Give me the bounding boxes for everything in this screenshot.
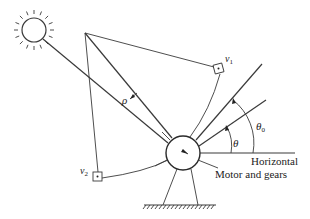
- solar-tracker-diagram: ρ v1 v2 θ θ0 Horizontal Motor and gears: [0, 0, 310, 219]
- theta0-arrowhead: [232, 98, 236, 104]
- motor-label: Motor and gears: [215, 168, 287, 180]
- stand-leg-right: [191, 169, 198, 205]
- ground-hatch: [143, 205, 216, 209]
- sun-ray-line: [43, 39, 168, 143]
- arc-v2: [102, 160, 168, 178]
- apex-to-v1-line: [85, 33, 214, 67]
- sensor-v2: [93, 172, 102, 181]
- v1-label: v1: [225, 53, 233, 66]
- v2-label: v2: [80, 165, 88, 178]
- horizontal-label: Horizontal: [251, 155, 298, 167]
- pivot-motor-circle: [166, 136, 200, 170]
- motor-leader-line: [198, 160, 218, 168]
- theta-label: θ: [233, 137, 239, 149]
- stand-leg-left: [163, 169, 177, 205]
- apex-to-v2-line: [85, 33, 98, 172]
- arc-v1: [190, 74, 220, 137]
- rho-label: ρ: [121, 94, 127, 106]
- pivot-lower-left-line: [155, 160, 167, 166]
- sensor-v1: [213, 63, 224, 74]
- rho-angle-marker: [130, 93, 137, 99]
- theta0-label: θ0: [256, 120, 265, 134]
- sun-icon: [14, 10, 54, 50]
- theta-arc: [227, 127, 232, 153]
